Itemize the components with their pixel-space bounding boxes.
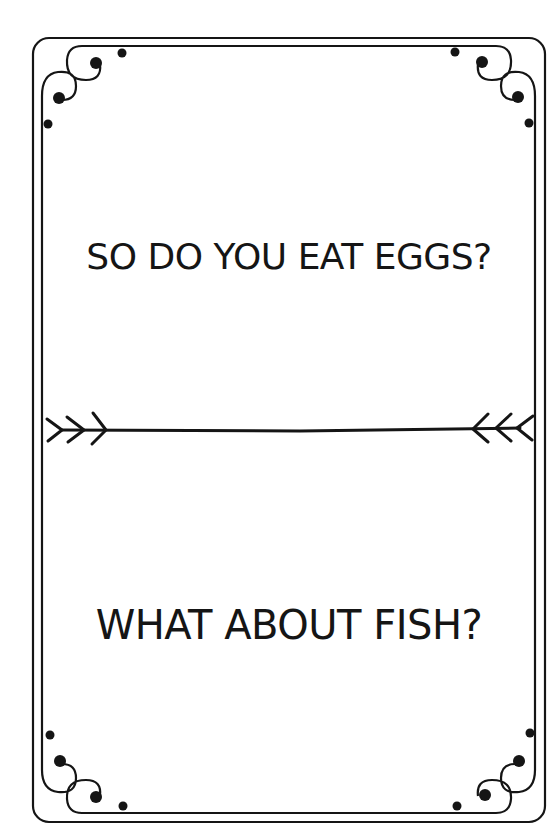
flourish-dot [513, 755, 525, 767]
top-question-text: SO DO YOU EAT EGGS? [42, 232, 536, 282]
flourish-dot [476, 56, 488, 68]
flourish-dot [44, 120, 53, 129]
question-card: SO DO YOU EAT EGGS? WHAT ABOUT FISH? [0, 0, 551, 837]
flourish-dot [526, 729, 535, 738]
flourish-dot [90, 57, 102, 69]
flourish-dot [512, 91, 524, 103]
flourish-dot [54, 755, 66, 767]
card-frame [0, 0, 551, 837]
arrow-divider [47, 413, 533, 444]
flourish-dot [46, 731, 55, 740]
bottom-left-flourish-line [42, 764, 100, 813]
bottom-right-flourish-line [478, 764, 535, 813]
divider-line [62, 428, 520, 431]
flourish-dot [90, 791, 102, 803]
flourish-dot [453, 802, 462, 811]
bottom-question-text: WHAT ABOUT FISH? [42, 597, 536, 653]
flourish-dot [525, 119, 534, 128]
flourish-dot [479, 789, 491, 801]
top-left-flourish-line [42, 46, 100, 100]
flourish-dot [53, 92, 65, 104]
top-right-flourish-line [478, 46, 535, 100]
flourish-dot [119, 802, 128, 811]
flourish-dot [451, 48, 460, 57]
flourish-dot [118, 49, 127, 58]
left-arrow-fletching-icon [47, 413, 106, 444]
